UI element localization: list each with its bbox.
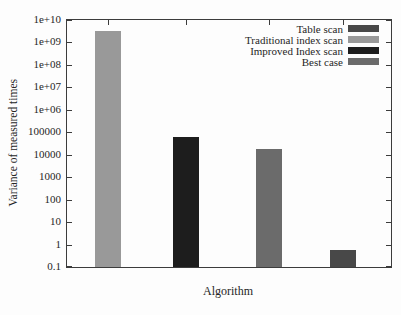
y-tick-label: 1e+09 <box>0 34 61 48</box>
y-tick-mark <box>67 20 72 21</box>
y-tick-mark <box>67 266 72 267</box>
y-tick-mark <box>386 132 391 133</box>
legend-row-improved-index-scan: Improved Index scan <box>245 45 379 56</box>
y-tick-mark <box>386 200 391 201</box>
y-tick-label: 0.1 <box>0 259 61 273</box>
y-tick-mark <box>67 65 72 66</box>
y-tick-mark <box>67 42 72 43</box>
y-tick-label: 1e+06 <box>0 102 61 116</box>
y-tick-mark <box>67 177 72 178</box>
y-tick-mark <box>67 155 72 156</box>
y-tick-mark <box>386 222 391 223</box>
y-tick-label: 1 <box>0 237 61 251</box>
y-tick-label: 1e+10 <box>0 12 61 26</box>
x-tick-mark <box>108 20 109 25</box>
bar-improved-index-scan <box>173 137 199 267</box>
legend: Table scanTraditional index scanImproved… <box>245 23 379 67</box>
y-tick-label: 10 <box>0 214 61 228</box>
legend-row-table-scan: Table scan <box>245 23 379 34</box>
y-tick-mark <box>386 266 391 267</box>
y-tick-mark <box>386 20 391 21</box>
y-tick-label: 10000 <box>0 147 61 161</box>
bar-chart-figure: Variance of measured times Table scanTra… <box>0 0 401 315</box>
legend-swatch <box>348 58 379 65</box>
legend-swatch <box>348 36 379 43</box>
y-tick-mark <box>386 42 391 43</box>
legend-swatch <box>348 47 379 54</box>
y-tick-label: 1000 <box>0 169 61 183</box>
legend-row-best-case: Best case <box>245 56 379 67</box>
x-axis-title: Algorithm <box>66 284 390 299</box>
y-tick-mark <box>386 87 391 88</box>
x-tick-mark <box>269 20 270 25</box>
y-tick-mark <box>67 132 72 133</box>
y-tick-label: 1e+07 <box>0 79 61 93</box>
bar-table-scan <box>330 250 356 267</box>
y-tick-mark <box>386 155 391 156</box>
y-tick-mark <box>386 65 391 66</box>
y-tick-mark <box>67 245 72 246</box>
y-tick-mark <box>386 245 391 246</box>
y-tick-mark <box>67 200 72 201</box>
y-tick-mark <box>386 110 391 111</box>
legend-swatch <box>348 25 379 32</box>
y-tick-mark <box>67 222 72 223</box>
bar-best-case <box>256 149 282 267</box>
y-tick-label: 100 <box>0 192 61 206</box>
legend-row-traditional-index-scan: Traditional index scan <box>245 34 379 45</box>
plot-area: Table scanTraditional index scanImproved… <box>66 19 392 268</box>
bar-traditional-index-scan <box>95 31 121 267</box>
y-tick-mark <box>386 177 391 178</box>
y-tick-mark <box>67 87 72 88</box>
legend-label: Best case <box>302 56 343 68</box>
y-tick-mark <box>67 110 72 111</box>
y-tick-label: 100000 <box>0 124 61 138</box>
x-tick-mark <box>186 20 187 25</box>
y-tick-label: 1e+08 <box>0 57 61 71</box>
x-tick-mark <box>343 20 344 25</box>
y-axis-title: Variance of measured times <box>7 79 19 206</box>
